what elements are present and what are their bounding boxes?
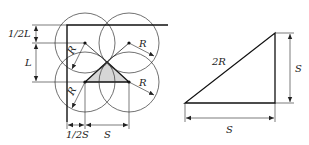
right-triangle [185, 33, 275, 103]
label-half-s: 1/2S [66, 129, 89, 140]
figure-canvas: R R R R 1/2L L 1/2S S 2R S [0, 0, 309, 145]
label-r-top-right: R [138, 38, 147, 49]
label-l: L [24, 57, 32, 68]
label-2r: 2R [211, 56, 226, 67]
label-r-bottom-right: R [138, 77, 147, 88]
right-triangle-diagram: 2R S S [185, 33, 302, 135]
label-half-l: 1/2L [8, 28, 31, 39]
circles-layout-diagram: R R R R 1/2L L 1/2S S [8, 13, 168, 140]
label-s-left: S [104, 129, 111, 140]
label-tri-vertical-s: S [295, 63, 302, 74]
label-tri-horizontal-s: S [226, 124, 233, 135]
